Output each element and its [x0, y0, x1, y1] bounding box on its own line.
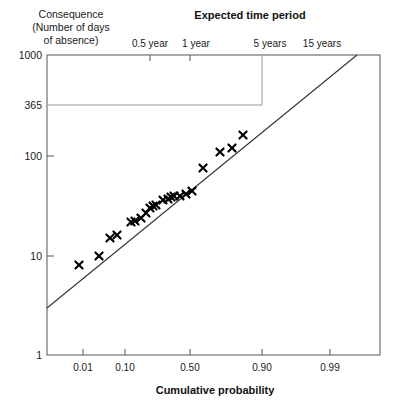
- data-point-marker: [216, 148, 223, 155]
- top-axis-ticks: [150, 55, 190, 61]
- x-axis-ticks: [83, 349, 330, 355]
- data-point-marker: [239, 131, 246, 138]
- data-point-marker: [106, 234, 113, 241]
- fit-line-group: [47, 55, 357, 308]
- data-point-marker: [95, 252, 102, 259]
- plot-frame: [47, 55, 380, 355]
- plot-area: [0, 0, 395, 406]
- reference-lines: [47, 55, 262, 105]
- y-axis-ticks: [47, 156, 54, 256]
- data-point-marker: [75, 261, 82, 268]
- data-points-group: [75, 131, 246, 268]
- lognormal-fit-line: [47, 55, 357, 308]
- data-point-marker: [113, 231, 120, 238]
- chart-root: Consequence (Number of days of absence) …: [0, 0, 395, 406]
- data-point-marker: [228, 144, 235, 151]
- data-point-marker: [199, 164, 206, 171]
